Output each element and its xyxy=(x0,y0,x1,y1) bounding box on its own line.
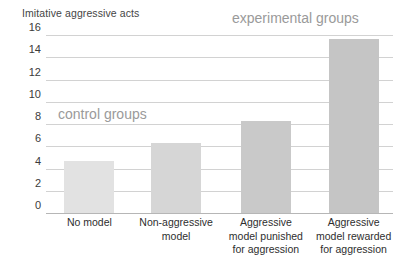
y-tick-label: 16 xyxy=(1,21,44,35)
x-category-label-line: Aggressive xyxy=(303,216,404,230)
gridline xyxy=(46,35,393,36)
annotation-control-groups: control groups xyxy=(58,106,147,122)
bar xyxy=(241,121,291,213)
x-category-label-line: model xyxy=(126,230,227,244)
x-category-label: Aggressivemodel punishedfor aggression xyxy=(216,216,317,257)
bar-chart: Imitative aggressive acts 1614121086420 … xyxy=(0,0,413,275)
y-tick-label: 6 xyxy=(1,132,44,146)
x-category-label-line: model rewarded xyxy=(303,230,404,244)
x-category-label: Aggressivemodel rewardedfor aggression xyxy=(303,216,404,257)
x-category-label: Non-aggressivemodel xyxy=(126,216,227,243)
y-tick-label: 10 xyxy=(1,88,44,102)
x-category-label-line: No model xyxy=(39,216,140,230)
x-category-label-line: Aggressive xyxy=(216,216,317,230)
bar xyxy=(64,161,114,213)
x-category-label: No model xyxy=(39,216,140,230)
y-tick-label: 4 xyxy=(1,155,44,169)
y-axis-title: Imitative aggressive acts xyxy=(22,7,139,19)
bar xyxy=(329,39,379,213)
plot-area xyxy=(46,35,393,213)
y-tick-label: 12 xyxy=(1,66,44,80)
x-axis-category-labels: No modelNon-aggressivemodelAggressivemod… xyxy=(46,216,393,274)
x-category-label-line: for aggression xyxy=(303,243,404,257)
x-category-label-line: model punished xyxy=(216,230,317,244)
axis-baseline xyxy=(46,213,393,214)
x-category-label-line: Non-aggressive xyxy=(126,216,227,230)
y-tick-label: 2 xyxy=(1,177,44,191)
y-axis-tick-labels: 1614121086420 xyxy=(0,35,44,213)
y-tick-label: 0 xyxy=(1,199,44,213)
annotation-experimental-groups: experimental groups xyxy=(232,10,359,26)
bar xyxy=(151,143,201,213)
x-category-label-line: for aggression xyxy=(216,243,317,257)
y-tick-label: 8 xyxy=(1,110,44,124)
y-tick-label: 14 xyxy=(1,43,44,57)
